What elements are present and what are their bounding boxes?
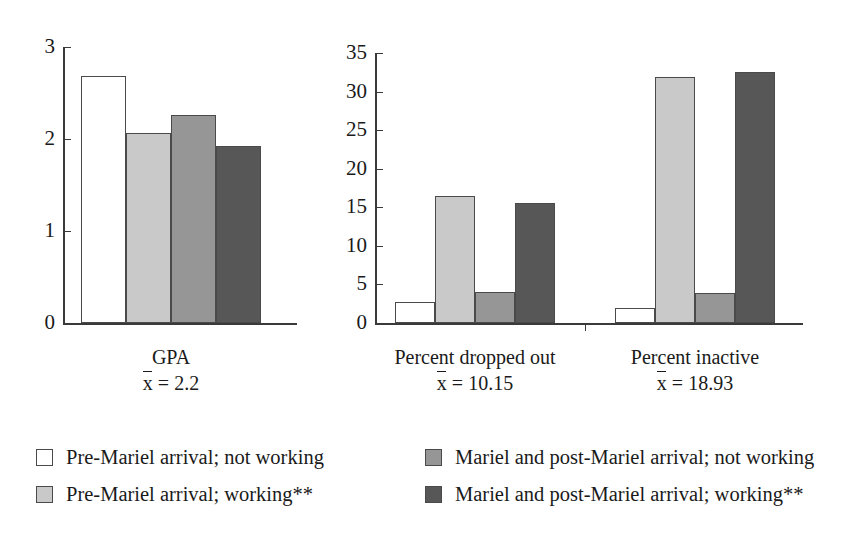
x-axis <box>63 323 297 325</box>
legend-label: Pre-Mariel arrival; not working <box>66 446 324 468</box>
category-name: GPA <box>152 346 190 368</box>
chart-panel-gpa: 0123 GPA x = 2.2 <box>18 30 258 330</box>
y-tick <box>377 53 383 54</box>
y-tick-label: 2 <box>23 128 55 149</box>
y-tick-label: 25 <box>327 119 367 140</box>
y-tick <box>377 284 383 285</box>
y-tick-label: 20 <box>327 158 367 179</box>
legend-swatch-icon <box>36 449 53 466</box>
bar <box>615 308 655 323</box>
y-tick <box>377 207 383 208</box>
x-bar-symbol: x <box>437 372 447 394</box>
bar <box>735 72 775 323</box>
bar <box>171 115 216 323</box>
legend-label: Mariel and post-Mariel arrival; not work… <box>455 446 814 468</box>
category-label-percent-inactive: Percent inactive x = 18.93 <box>570 345 820 396</box>
mean-value-text: = 2.2 <box>158 372 199 394</box>
y-tick-label: 35 <box>327 42 367 63</box>
bar <box>395 302 435 323</box>
legend-item: Mariel and post-Mariel arrival; not work… <box>425 446 814 468</box>
plot-area-percent: 05101520253035 <box>300 30 800 330</box>
y-tick <box>65 47 71 48</box>
legend-item: Mariel and post-Mariel arrival; working*… <box>425 483 803 505</box>
y-tick <box>377 169 383 170</box>
bar <box>126 133 171 323</box>
y-tick-label: 10 <box>327 235 367 256</box>
chart-legend: Pre-Mariel arrival; not working Pre-Mari… <box>36 443 826 523</box>
category-label-percent-dropped-out: Percent dropped out x = 10.15 <box>350 345 600 396</box>
category-mean: x = 18.93 <box>570 370 820 396</box>
y-tick-label: 0 <box>327 312 367 333</box>
category-mean: x = 2.2 <box>41 370 301 396</box>
y-tick-label: 30 <box>327 81 367 102</box>
y-axis <box>63 47 65 324</box>
y-tick <box>65 231 71 232</box>
y-tick <box>377 130 383 131</box>
legend-label: Mariel and post-Mariel arrival; working*… <box>455 483 803 505</box>
bar <box>475 292 515 323</box>
chart-panel-percent: 05101520253035 Percent dropped out x = 1… <box>300 30 800 330</box>
x-axis <box>375 323 803 325</box>
legend-label: Pre-Mariel arrival; working** <box>66 483 313 505</box>
mean-value-text: = 10.15 <box>452 372 513 394</box>
x-bar-symbol: x <box>143 372 153 394</box>
bar <box>81 76 126 323</box>
y-tick-label: 0 <box>23 312 55 333</box>
y-tick-label: 15 <box>327 196 367 217</box>
chart-figure: 0123 GPA x = 2.2 05101520253035 Percent … <box>0 0 843 542</box>
legend-swatch-icon <box>425 449 442 466</box>
bar <box>435 196 475 323</box>
plot-area-gpa: 0123 <box>18 30 258 330</box>
mean-value-text: = 18.93 <box>672 372 733 394</box>
x-bar-symbol: x <box>657 372 667 394</box>
category-name: Percent dropped out <box>394 346 555 368</box>
y-tick-label: 1 <box>23 220 55 241</box>
y-tick <box>65 139 71 140</box>
category-name: Percent inactive <box>631 346 759 368</box>
legend-swatch-icon <box>36 486 53 503</box>
bar <box>655 77 695 323</box>
y-tick <box>377 246 383 247</box>
y-tick-label: 5 <box>327 273 367 294</box>
category-label-gpa: GPA x = 2.2 <box>41 345 301 396</box>
bar <box>216 146 261 323</box>
x-tick-group-separator <box>585 325 586 331</box>
y-tick <box>377 92 383 93</box>
bar <box>695 293 735 323</box>
category-mean: x = 10.15 <box>350 370 600 396</box>
y-tick-label: 3 <box>23 36 55 57</box>
legend-item: Pre-Mariel arrival; working** <box>36 483 313 505</box>
legend-swatch-icon <box>425 486 442 503</box>
bar <box>515 203 555 323</box>
legend-item: Pre-Mariel arrival; not working <box>36 446 324 468</box>
